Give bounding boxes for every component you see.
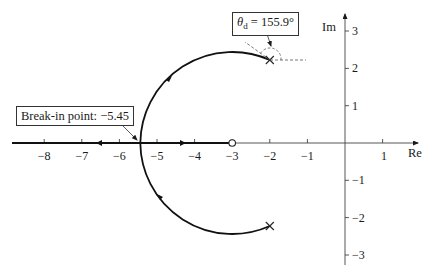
re-axis-label: Re [408,146,422,160]
breakin-label: Break-in point: −5.45 [21,109,129,123]
x-tick-label: 1 [381,149,387,163]
y-tick-label: 3 [352,24,358,38]
x-tick-label: −1 [301,149,314,163]
x-tick-label: −4 [188,149,201,163]
theta-value: = 155.9° [248,15,294,29]
x-tick-label: −2 [263,149,276,163]
x-tick-label: −8 [38,149,51,163]
departure-angle-callout: θd = 155.9° [232,12,299,36]
arrow-left-icon [96,140,102,146]
y-tick-label: 2 [352,61,358,75]
x-tick-label: −3 [226,149,239,163]
breakin-callout-arrow [122,125,137,140]
pole-marker-icon [266,222,274,230]
y-tick-label: −2 [352,211,365,225]
y-tick-label: −3 [352,248,365,262]
arrow-right-icon [180,140,186,146]
departure-tangent-line [245,42,270,60]
x-tick-label: −6 [113,149,126,163]
locus-upper-branch [140,52,269,143]
x-tick-label: −5 [151,149,164,163]
x-tick-label: −7 [75,149,88,163]
y-tick-label: 1 [352,99,358,113]
im-axis-label: Im [322,20,336,34]
root-locus-plot: −8 −7 −6 −5 −4 −3 −2 −1 1 3 2 1 −1 −2 −3… [0,0,433,278]
y-tick-label: −1 [352,173,365,187]
zero-marker-icon [229,140,236,147]
breakin-point-callout: Break-in point: −5.45 [16,106,134,126]
